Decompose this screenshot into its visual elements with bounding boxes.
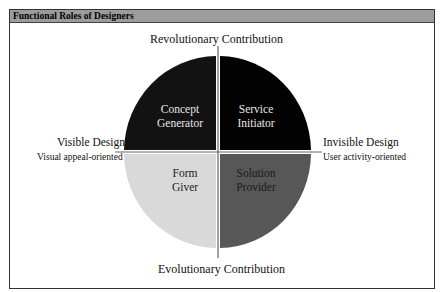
axis-label-invisible-design: Invisible Design <box>323 137 399 149</box>
label-line: Giver <box>155 180 215 194</box>
label-solution-provider: Solution Provider <box>226 166 286 194</box>
axis-label-evolutionary: Evolutionary Contribution <box>158 263 285 275</box>
label-concept-generator: Concept Generator <box>150 102 210 130</box>
label-line: Generator <box>150 116 210 130</box>
label-line: Initiator <box>226 116 286 130</box>
label-line: Concept <box>150 102 210 116</box>
label-form-giver: Form Giver <box>155 166 215 194</box>
axis-label-revolutionary: Revolutionary Contribution <box>150 33 283 45</box>
axis-label-visible-design: Visible Design <box>57 137 125 149</box>
axis-sublabel-visual-appeal: Visual appeal-oriented <box>37 153 123 163</box>
axis-sublabel-user-activity: User activity-oriented <box>323 153 406 163</box>
label-line: Provider <box>226 180 286 194</box>
label-service-initiator: Service Initiator <box>226 102 286 130</box>
label-line: Service <box>226 102 286 116</box>
label-line: Solution <box>226 166 286 180</box>
label-line: Form <box>155 166 215 180</box>
